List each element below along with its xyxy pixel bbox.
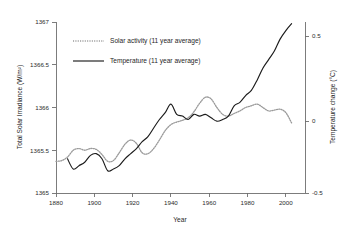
left-tick-label: 1365.5: [30, 147, 49, 154]
x-tick-label: 1940: [164, 199, 178, 206]
left-axis-ticks: [52, 22, 56, 193]
right-axis-tick-labels: 0.5 0 -0.5: [312, 32, 323, 196]
x-tick-label: 1960: [202, 199, 216, 206]
bottom-axis-tick-labels: 1880 1900 1920 1940 1960 1980 2000: [49, 199, 293, 206]
chart-legend: Solar activity (11 year average) Tempera…: [73, 37, 201, 65]
left-tick-label: 1365: [35, 189, 49, 196]
x-axis-title: Year: [173, 216, 187, 223]
y2-axis-title: Temperature change (°C): [329, 70, 337, 144]
x-tick-label: 1900: [87, 199, 101, 206]
x-tick-label: 1980: [241, 199, 255, 206]
bottom-axis-ticks: [56, 193, 286, 197]
series-line-solar-activity: [56, 97, 292, 162]
right-tick-label: -0.5: [312, 189, 323, 196]
left-axis-tick-labels: 1367 1366.5 1366 1365.5 1365: [30, 18, 49, 196]
chart-canvas: 1367 1366.5 1366 1365.5 1365 0.5 0 -0.5: [0, 0, 349, 235]
legend-label-solar-activity: Solar activity (11 year average): [110, 37, 201, 45]
x-tick-label: 1880: [49, 199, 63, 206]
right-axis-ticks: [305, 36, 309, 193]
solar-temperature-chart: 1367 1366.5 1366 1365.5 1365 0.5 0 -0.5: [0, 0, 349, 235]
right-tick-label: 0: [312, 117, 316, 124]
left-tick-label: 1366: [35, 104, 49, 111]
y-axis-title: Total Solar Irradiance (W/m²): [16, 65, 24, 149]
x-tick-label: 2000: [279, 199, 293, 206]
left-tick-label: 1367: [35, 18, 49, 25]
legend-label-temperature: Temperature (11 year average): [110, 57, 200, 65]
right-tick-label: 0.5: [312, 32, 321, 39]
left-tick-label: 1366.5: [30, 61, 49, 68]
series-line-temperature: [67, 24, 291, 172]
x-tick-label: 1920: [126, 199, 140, 206]
